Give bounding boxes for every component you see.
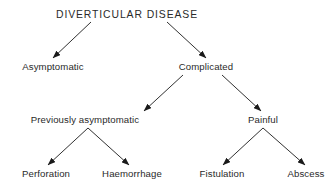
node-abscess: Abscess	[288, 168, 325, 179]
node-fistulation: Fistulation	[200, 168, 245, 179]
arrow-painful-to-fistulation	[223, 128, 263, 165]
arrow-previously_asymptomatic-to-perforation	[48, 128, 88, 165]
node-painful: Painful	[248, 114, 278, 125]
node-previously-asymptomatic: Previously asymptomatic	[31, 114, 139, 125]
node-haemorrhage: Haemorrhage	[102, 168, 162, 179]
arrow-root-to-complicated	[167, 22, 206, 58]
diagram-canvas: DIVERTICULAR DISEASE Asymptomatic Compli…	[0, 0, 336, 187]
arrow-root-to-asymptomatic	[53, 22, 91, 58]
arrow-painful-to-abscess	[263, 128, 305, 165]
arrow-previously_asymptomatic-to-haemorrhage	[88, 128, 129, 165]
node-perforation: Perforation	[22, 168, 70, 179]
edges-layer	[0, 0, 336, 187]
node-diverticular-disease: DIVERTICULAR DISEASE	[56, 9, 198, 20]
node-asymptomatic: Asymptomatic	[22, 61, 83, 72]
arrow-complicated-to-previously_asymptomatic	[144, 75, 183, 111]
node-complicated: Complicated	[179, 61, 233, 72]
arrow-complicated-to-painful	[222, 75, 261, 111]
